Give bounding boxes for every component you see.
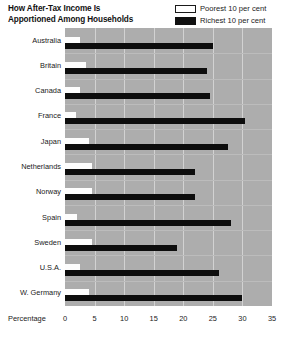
value-axis: Percentage 05101520253035 [0, 312, 283, 332]
legend-label-richest: Richest 10 per cent [200, 16, 265, 25]
bar-richest [65, 295, 242, 301]
chart-title-line-1: How After-Tax Income Is [8, 4, 178, 15]
tick-label: 5 [93, 314, 97, 323]
bar-richest [65, 68, 207, 74]
category-label: Netherlands [21, 163, 61, 171]
legend-item-poorest: Poorest 10 per cent [175, 3, 279, 14]
tick-label: 30 [238, 314, 246, 323]
legend-swatch-poorest-icon [175, 5, 196, 13]
gridline [213, 28, 214, 306]
chart-title-line-2: Apportioned Among Households [8, 15, 178, 26]
legend-swatch-richest-icon [175, 17, 196, 25]
bar-richest [65, 169, 195, 175]
tick-label: 15 [150, 314, 158, 323]
category-label: Australia [32, 37, 61, 45]
bar-richest [65, 43, 213, 49]
category-label: Britain [40, 62, 61, 70]
row-separator [65, 205, 272, 206]
category-label: Canada [35, 87, 61, 95]
row-separator [65, 104, 272, 105]
category-label: France [38, 112, 61, 120]
gridline [242, 28, 243, 306]
tick-label: 20 [179, 314, 187, 323]
legend-label-poorest: Poorest 10 per cent [200, 4, 266, 13]
bar-richest [65, 194, 195, 200]
category-label: W. Germany [20, 289, 61, 297]
plot-area [65, 28, 272, 306]
bar-richest [65, 270, 219, 276]
bar-richest [65, 220, 231, 226]
row-separator [65, 154, 272, 155]
tick-label: 10 [120, 314, 128, 323]
plot-wrapper: AustraliaBritainCanadaFranceJapanNetherl… [0, 28, 283, 310]
chart-title: How After-Tax Income Is Apportioned Amon… [8, 4, 178, 25]
chart-root: How After-Tax Income Is Apportioned Amon… [0, 0, 283, 337]
category-label: Japan [41, 138, 61, 146]
tick-label: 35 [268, 314, 276, 323]
tick-label: 25 [209, 314, 217, 323]
category-label: Spain [42, 214, 61, 222]
bar-richest [65, 144, 228, 150]
tick-label: 0 [63, 314, 67, 323]
category-label: Norway [36, 188, 61, 196]
row-separator [65, 180, 272, 181]
bar-richest [65, 245, 177, 251]
chart-legend: Poorest 10 per cent Richest 10 per cent [175, 3, 279, 27]
axis-title: Percentage [8, 314, 46, 323]
row-separator [65, 230, 272, 231]
bar-richest [65, 118, 245, 124]
bar-richest [65, 93, 210, 99]
row-separator [65, 53, 272, 54]
chart-header: How After-Tax Income Is Apportioned Amon… [0, 0, 283, 30]
category-axis-labels: AustraliaBritainCanadaFranceJapanNetherl… [0, 28, 64, 310]
category-label: U.S.A. [40, 264, 61, 272]
row-separator [65, 255, 272, 256]
row-separator [65, 281, 272, 282]
row-separator [65, 129, 272, 130]
category-label: Sweden [34, 239, 61, 247]
legend-item-richest: Richest 10 per cent [175, 15, 279, 26]
row-separator [65, 79, 272, 80]
